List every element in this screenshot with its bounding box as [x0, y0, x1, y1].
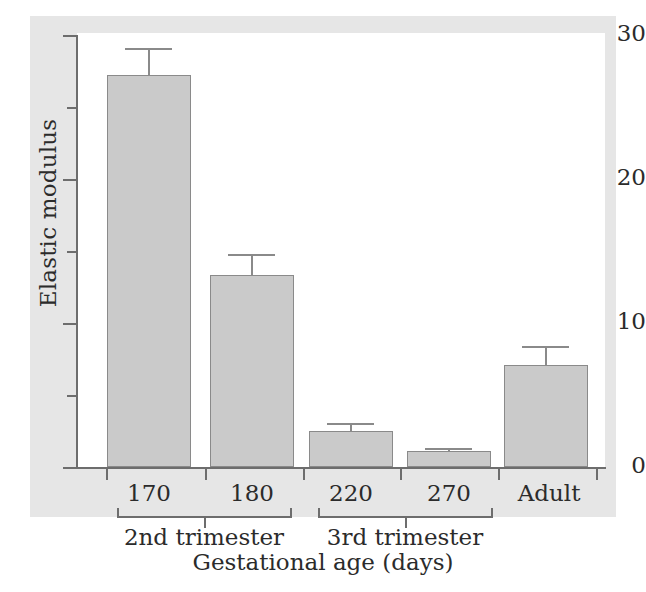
error-cap-adult: [522, 346, 569, 348]
x-tick-2: [303, 468, 305, 480]
chart-figure: 30 20 10 0 Elastic modulus 170 180 220 2…: [0, 0, 646, 592]
error-cap-170: [125, 48, 172, 50]
y-tick-15: [67, 251, 77, 253]
x-tick-5: [596, 468, 598, 480]
error-cap-220: [327, 423, 374, 425]
y-tick-label-10: 10: [600, 310, 646, 333]
error-cap-270: [425, 448, 472, 450]
error-stem-170: [148, 48, 150, 75]
bar-180: [210, 275, 294, 467]
x-tick-0: [106, 468, 108, 480]
y-tick-label-30: 30: [600, 22, 646, 45]
error-stem-adult: [545, 346, 547, 365]
x-tick-4: [498, 468, 500, 480]
x-label-adult: Adult: [504, 482, 594, 505]
y-tick-label-0: 0: [600, 454, 646, 477]
x-axis-line: [76, 467, 606, 469]
x-tick-1: [205, 468, 207, 480]
x-label-170: 170: [107, 482, 191, 505]
y-tick-0: [63, 467, 77, 469]
bar-220: [309, 431, 393, 467]
x-tick-3: [400, 468, 402, 480]
bar-270: [407, 451, 491, 467]
y-tick-25: [67, 107, 77, 109]
x-label-220: 220: [309, 482, 393, 505]
group-label-2nd-trimester: 2nd trimester: [104, 526, 304, 549]
x-label-180: 180: [210, 482, 294, 505]
y-tick-10: [63, 323, 77, 325]
bar-adult: [504, 365, 588, 467]
bar-170: [107, 75, 191, 467]
x-label-270: 270: [407, 482, 491, 505]
y-tick-20: [63, 179, 77, 181]
error-cap-180: [228, 254, 275, 256]
group-label-3rd-trimester: 3rd trimester: [305, 526, 505, 549]
x-axis-title: Gestational age (days): [0, 549, 646, 575]
y-tick-label-20: 20: [600, 166, 646, 189]
y-tick-30: [63, 35, 77, 37]
y-axis-title: Elastic modulus: [35, 103, 61, 323]
y-tick-5: [67, 395, 77, 397]
error-stem-180: [251, 254, 253, 275]
